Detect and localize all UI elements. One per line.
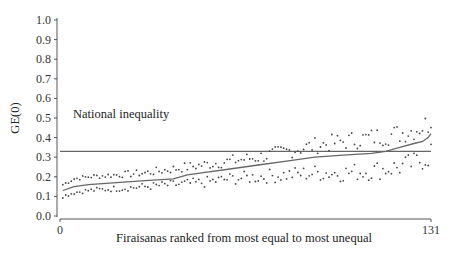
y-tick-label: 0.6 xyxy=(36,91,51,105)
y-tick-label: 0.1 xyxy=(36,189,51,203)
x-axis-title: Firaisanas ranked from most equal to mos… xyxy=(116,231,372,245)
y-tick-label: 0.2 xyxy=(36,170,51,184)
y-tick-label: 0.4 xyxy=(36,131,51,145)
y-axis-title: GE(0) xyxy=(8,102,22,133)
y-tick-label: 0.9 xyxy=(36,33,51,47)
x-tick-label: 0 xyxy=(57,223,63,237)
chart: 0.00.10.20.30.40.50.60.70.80.91.0 0131 G… xyxy=(0,0,454,254)
y-tick-label: 0.8 xyxy=(36,52,51,66)
y-tick-label: 0.3 xyxy=(36,150,51,164)
x-tick-label: 131 xyxy=(422,223,440,237)
y-tick-label: 1.0 xyxy=(36,13,51,27)
y-axis: 0.00.10.20.30.40.50.60.70.80.91.0 xyxy=(36,13,57,223)
y-tick-label: 0.0 xyxy=(36,209,51,223)
ge0-line xyxy=(63,134,431,191)
y-tick-label: 0.5 xyxy=(36,111,51,125)
confidence-bound-dots xyxy=(62,118,432,199)
national-inequality-label: National inequality xyxy=(73,107,170,121)
y-tick-label: 0.7 xyxy=(36,72,51,86)
